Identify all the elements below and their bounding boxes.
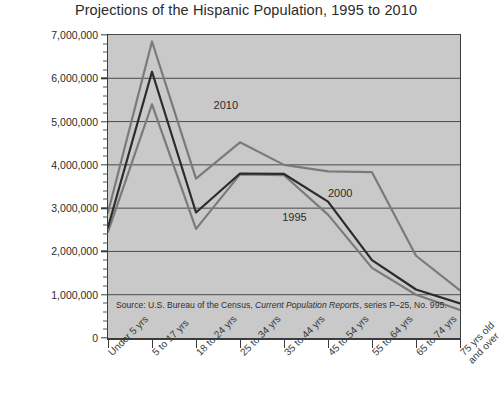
- y-axis-tick-minor: [103, 60, 108, 61]
- y-axis-tick-minor: [103, 286, 108, 287]
- series-line-2010: [108, 41, 460, 290]
- chart-title: Projections of the Hispanic Population, …: [0, 2, 492, 18]
- y-axis-tick-minor: [103, 173, 108, 174]
- y-axis-tick-minor: [103, 320, 108, 321]
- series-line-2000: [108, 72, 460, 304]
- y-axis-tick-minor: [103, 86, 108, 87]
- series-line-1995: [108, 104, 460, 310]
- y-axis-tick-minor: [103, 52, 108, 53]
- x-axis-label: 75 yrs old and over: [458, 319, 503, 365]
- y-axis-label: 2,000,000: [2, 245, 98, 257]
- y-axis-tick-minor: [103, 303, 108, 304]
- y-axis-tick-minor: [103, 43, 108, 44]
- gridlines: [108, 78, 460, 294]
- y-axis-tick-minor: [103, 268, 108, 269]
- source-note: Source: U.S. Bureau of the Census, Curre…: [116, 300, 447, 310]
- y-axis-tick-minor: [103, 216, 108, 217]
- y-axis-tick-major: [101, 78, 108, 79]
- y-axis-tick-minor: [103, 69, 108, 70]
- y-axis-label: 5,000,000: [2, 116, 98, 128]
- y-axis-tick-major: [101, 251, 108, 252]
- plot-area: Source: U.S. Bureau of the Census, Curre…: [108, 35, 461, 338]
- y-axis-tick-major: [101, 34, 108, 35]
- y-axis-tick-minor: [103, 147, 108, 148]
- y-axis-tick-minor: [103, 242, 108, 243]
- y-axis-label: 7,000,000: [2, 29, 98, 41]
- y-axis-label: 0: [2, 332, 98, 344]
- y-axis-label: 3,000,000: [2, 202, 98, 214]
- y-axis-tick-minor: [103, 199, 108, 200]
- y-axis-label: 1,000,000: [2, 289, 98, 301]
- y-axis-tick-minor: [103, 312, 108, 313]
- y-axis-tick-minor: [103, 182, 108, 183]
- source-italic-title: Current Population Reports: [255, 300, 359, 310]
- y-axis-tick-minor: [103, 104, 108, 105]
- series-annotation-1995: 1995: [282, 211, 306, 223]
- y-axis-tick-minor: [103, 130, 108, 131]
- source-suffix: , series P–25, No. 995.: [359, 300, 446, 310]
- series-annotation-2000: 2000: [328, 187, 352, 199]
- y-axis-label: 4,000,000: [2, 159, 98, 171]
- y-axis-tick-major: [101, 164, 108, 165]
- y-axis-tick-minor: [103, 225, 108, 226]
- y-axis-tick-minor: [103, 329, 108, 330]
- y-axis-tick-major: [101, 337, 108, 338]
- y-axis-tick-minor: [103, 277, 108, 278]
- series-paths: [108, 41, 460, 309]
- y-axis-tick-minor: [103, 138, 108, 139]
- y-axis-tick-minor: [103, 234, 108, 235]
- y-axis-tick-minor: [103, 156, 108, 157]
- y-axis-tick-minor: [103, 95, 108, 96]
- y-axis-tick-minor: [103, 190, 108, 191]
- series-annotation-2010: 2010: [214, 99, 238, 111]
- y-axis-tick-major: [101, 121, 108, 122]
- series-lines-svg: [108, 35, 460, 338]
- y-axis-tick-minor: [103, 112, 108, 113]
- y-axis-tick-major: [101, 294, 108, 295]
- y-axis-tick-minor: [103, 260, 108, 261]
- y-axis-tick-major: [101, 207, 108, 208]
- source-prefix: Source: U.S. Bureau of the Census,: [116, 300, 255, 310]
- y-axis-label: 6,000,000: [2, 72, 98, 84]
